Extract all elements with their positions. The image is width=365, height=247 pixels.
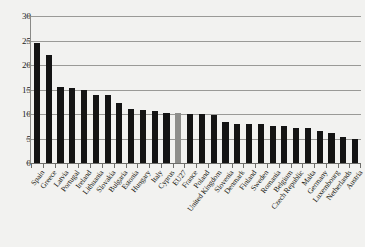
gridline — [31, 41, 361, 42]
bar — [34, 43, 40, 163]
x-axis-tick-mark — [114, 164, 115, 168]
x-axis-tick-mark — [31, 164, 32, 168]
x-axis-tick-mark — [232, 164, 233, 168]
gridline — [31, 65, 361, 66]
bar — [105, 95, 111, 163]
bar — [234, 124, 240, 163]
bar — [140, 110, 146, 163]
bar — [317, 131, 323, 163]
x-axis-tick-mark — [161, 164, 162, 168]
bar — [199, 114, 205, 163]
bar — [293, 128, 299, 163]
x-axis-labels: SpainGreeceLatviaPortugalIrelandLithuani… — [31, 169, 365, 247]
x-axis-tick-mark — [360, 164, 361, 168]
bar — [305, 128, 311, 163]
x-axis-tick-mark — [279, 164, 280, 168]
x-axis-tick-mark — [90, 164, 91, 168]
gridline — [31, 16, 361, 17]
bar — [328, 133, 334, 163]
x-axis-tick-mark — [220, 164, 221, 168]
x-axis-tick-mark — [243, 164, 244, 168]
bar — [222, 122, 228, 163]
x-axis-tick-mark — [267, 164, 268, 168]
plot-area — [31, 16, 361, 163]
bar — [116, 103, 122, 163]
y-axis-line — [30, 16, 31, 164]
x-axis-tick-mark — [291, 164, 292, 168]
bar — [246, 124, 252, 163]
x-axis-tick-mark — [255, 164, 256, 168]
x-axis-tick-mark — [208, 164, 209, 168]
x-axis-tick-mark — [67, 164, 68, 168]
bar — [270, 126, 276, 163]
x-axis-tick-mark — [102, 164, 103, 168]
x-axis-tick-mark — [302, 164, 303, 168]
bar — [211, 115, 217, 164]
x-axis-tick-mark — [43, 164, 44, 168]
bar — [152, 111, 158, 163]
bar — [46, 55, 52, 163]
bar — [187, 114, 193, 163]
y-axis-labels: 051015202530 — [0, 0, 31, 247]
bar — [69, 88, 75, 163]
x-axis-tick-mark — [196, 164, 197, 168]
bar — [258, 124, 264, 163]
x-axis-tick-mark — [326, 164, 327, 168]
bar — [163, 113, 169, 163]
x-axis-tick-mark — [126, 164, 127, 168]
bar — [128, 109, 134, 163]
x-axis-tick-mark — [314, 164, 315, 168]
bar — [81, 90, 87, 164]
x-axis-tick-mark — [78, 164, 79, 168]
bar — [175, 113, 181, 163]
bar-chart: 051015202530 SpainGreeceLatviaPortugalIr… — [0, 0, 365, 247]
x-axis-tick-mark — [349, 164, 350, 168]
x-axis-tick-mark — [149, 164, 150, 168]
x-axis-tick-mark — [338, 164, 339, 168]
bar — [352, 139, 358, 163]
x-axis-tick-mark — [55, 164, 56, 168]
x-axis-tick-mark — [137, 164, 138, 168]
x-axis-tick-mark — [184, 164, 185, 168]
x-axis-tick-mark — [173, 164, 174, 168]
bar — [93, 95, 99, 163]
bar — [281, 126, 287, 163]
bar — [57, 87, 63, 163]
bar — [340, 137, 346, 163]
